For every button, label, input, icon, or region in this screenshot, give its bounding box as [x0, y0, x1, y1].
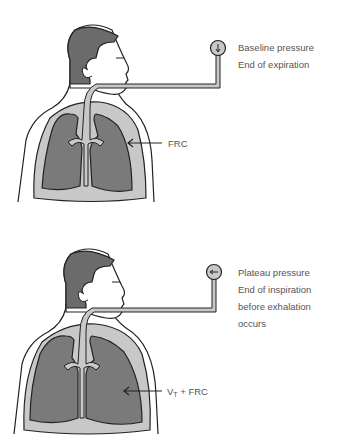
expiration-caption: Baseline pressure End of expiration — [238, 39, 314, 73]
caption-line: Baseline pressure — [238, 39, 314, 56]
panel-expiration — [18, 25, 226, 202]
caption-line: End of inspiration — [238, 281, 311, 298]
caption-line: occurs — [238, 315, 311, 332]
frc-label: FRC — [168, 135, 188, 152]
vt-rest: + FRC — [178, 386, 208, 397]
inspiration-caption: Plateau pressure End of inspiration befo… — [238, 264, 311, 332]
caption-line: Plateau pressure — [238, 264, 311, 281]
panel-inspiration — [14, 249, 222, 434]
left-lung — [30, 336, 78, 423]
caption-line: before exhalation — [238, 298, 311, 315]
vt-frc-label: VT + FRC — [167, 383, 208, 403]
caption-line: End of expiration — [238, 56, 314, 73]
